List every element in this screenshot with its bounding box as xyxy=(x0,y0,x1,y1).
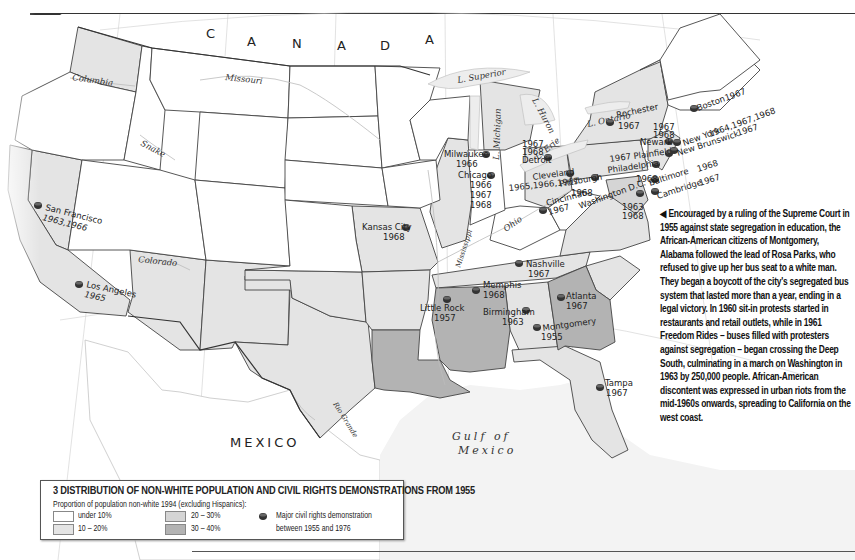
svg-text:N: N xyxy=(292,36,302,51)
lake-label-michigan: L. Michigan xyxy=(491,108,503,161)
svg-text:1967: 1967 xyxy=(470,190,492,200)
legend-title: 3 DISTRIBUTION OF NON-WHITE POPULATION A… xyxy=(53,484,475,496)
demonstration-icon xyxy=(596,384,604,391)
caption-arrow-icon: ◀ xyxy=(660,208,666,219)
svg-text:C: C xyxy=(206,26,215,41)
svg-text:A: A xyxy=(337,38,346,53)
demonstration-icon xyxy=(34,202,42,209)
svg-text:1957: 1957 xyxy=(434,313,456,323)
svg-text:Chicago: Chicago xyxy=(458,170,492,180)
legend-label-30-40: 30 – 40% xyxy=(191,524,220,533)
legend-label-under-10: under 10% xyxy=(78,511,112,520)
svg-text:A: A xyxy=(425,32,434,47)
demonstration-icon xyxy=(606,119,614,126)
svg-text:Kansas City: Kansas City xyxy=(362,222,411,232)
demonstration-icon xyxy=(258,511,268,521)
map-caption: ◀ Encouraged by a ruling of the Supreme … xyxy=(660,207,852,425)
demonstration-icon xyxy=(539,207,547,214)
map-legend: 3 DISTRIBUTION OF NON-WHITE POPULATION A… xyxy=(40,480,404,540)
demonstration-icon xyxy=(443,296,451,303)
svg-text:1968: 1968 xyxy=(636,174,658,184)
legend-swatch-under-10 xyxy=(53,511,74,522)
svg-text:Detroit: Detroit xyxy=(522,155,552,165)
bottom-rule xyxy=(192,551,855,552)
svg-text:Memphis: Memphis xyxy=(483,280,522,290)
svg-text:1963: 1963 xyxy=(502,317,524,327)
svg-text:1968: 1968 xyxy=(470,200,492,210)
legend-swatch-30-40 xyxy=(165,524,186,535)
legend-subtitle: Proportion of population non-white 1994 … xyxy=(53,500,246,509)
gulf-label-1: Gulf of xyxy=(452,430,511,443)
demonstration-icon xyxy=(533,324,541,331)
svg-text:1967: 1967 xyxy=(606,388,628,398)
svg-text:1967: 1967 xyxy=(566,301,588,311)
demonstration-icon xyxy=(75,281,83,288)
svg-text:Nashville: Nashville xyxy=(526,259,565,269)
legend-swatch-10-20 xyxy=(53,524,74,535)
legend-label-10-20: 10 – 20% xyxy=(78,524,107,533)
country-label-mexico: MEXICO xyxy=(230,435,299,450)
svg-text:D: D xyxy=(380,38,390,53)
legend-swatch-20-30 xyxy=(165,511,186,522)
svg-text:Milwaukee: Milwaukee xyxy=(444,149,489,159)
demonstration-icon xyxy=(557,294,565,301)
west-fade xyxy=(0,0,40,560)
svg-text:Little Rock: Little Rock xyxy=(420,303,464,313)
caption-text: Encouraged by a ruling of the Supreme Co… xyxy=(660,208,851,423)
demonstration-icon xyxy=(636,190,644,197)
legend-symbol-label-1: Major civil rights demonstration xyxy=(276,511,372,520)
gulf-label-2: Mexico xyxy=(457,444,516,457)
svg-text:1967: 1967 xyxy=(618,121,640,131)
legend-symbol-label-2: between 1955 and 1976 xyxy=(276,524,351,533)
svg-text:1968: 1968 xyxy=(622,211,644,221)
svg-text:Birmingham: Birmingham xyxy=(483,307,535,317)
svg-text:Tampa: Tampa xyxy=(604,378,633,388)
demonstration-icon xyxy=(515,260,523,267)
svg-text:1968: 1968 xyxy=(383,232,405,242)
svg-text:A: A xyxy=(247,34,256,49)
svg-text:1967: 1967 xyxy=(528,269,550,279)
svg-text:1968: 1968 xyxy=(483,290,505,300)
legend-label-20-30: 20 – 30% xyxy=(191,511,220,520)
demonstration-icon xyxy=(472,287,480,294)
demonstration-icon xyxy=(673,139,681,146)
svg-text:1966: 1966 xyxy=(470,180,492,190)
svg-text:1955: 1955 xyxy=(541,332,563,342)
svg-text:1966: 1966 xyxy=(456,159,478,169)
svg-text:Atlanta: Atlanta xyxy=(566,291,597,301)
svg-text:Newark: Newark xyxy=(640,137,672,147)
svg-text:1967: 1967 xyxy=(698,172,722,188)
